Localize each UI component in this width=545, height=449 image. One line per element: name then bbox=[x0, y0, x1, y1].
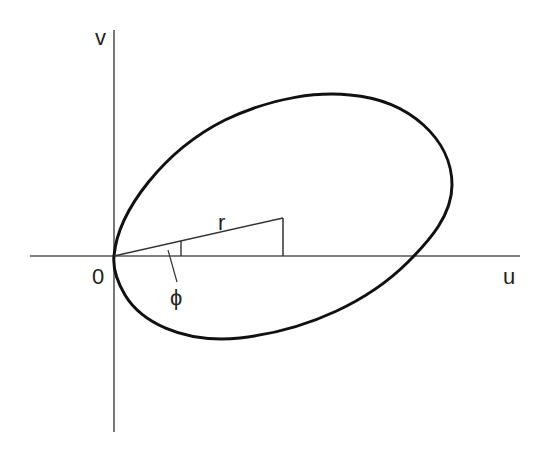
radius-line bbox=[114, 218, 283, 256]
radius-label: r bbox=[218, 210, 225, 235]
angle-leader-line bbox=[168, 250, 177, 282]
origin-label: 0 bbox=[92, 264, 104, 289]
polar-ellipse-diagram: v u 0 r ϕ bbox=[0, 0, 545, 449]
angle-phi-label: ϕ bbox=[170, 285, 182, 310]
u-axis-label: u bbox=[503, 264, 515, 289]
v-axis-label: v bbox=[95, 25, 106, 50]
closed-curve bbox=[114, 94, 452, 339]
